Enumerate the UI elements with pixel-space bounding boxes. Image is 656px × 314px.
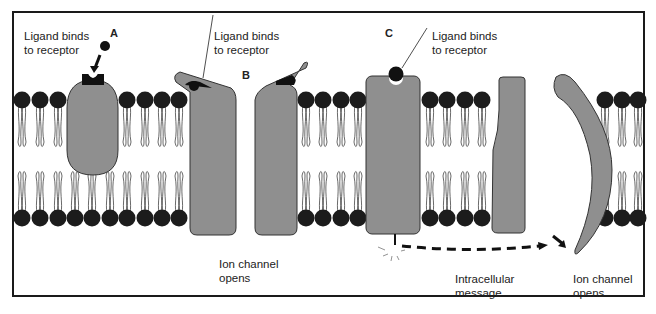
label-c-ligand-binds: Ligand binds <box>432 30 497 43</box>
label-b-to-receptor: to receptor <box>214 44 269 57</box>
panel-letter-c: C <box>385 27 393 39</box>
ligand-c-icon <box>389 67 404 82</box>
intracellular-message-arrow <box>402 246 540 250</box>
ligand-a-icon <box>100 41 110 51</box>
lipid-bilayer-bottom-leaflet <box>14 172 647 227</box>
label-a-ligand-binds: Ligand binds <box>24 30 89 43</box>
label-b-opens: opens <box>219 272 250 285</box>
label-b-ligand-binds: Ligand binds <box>214 30 279 43</box>
receptor-protein-c <box>366 67 420 235</box>
label-c-ion-channel: Ion channel <box>573 273 632 286</box>
panel-letter-a: A <box>110 27 118 39</box>
label-c-intracellular: Intracellular <box>455 273 514 286</box>
label-a-to-receptor: to receptor <box>24 44 79 57</box>
label-c-message: message <box>455 287 502 300</box>
receptor-protein-a <box>67 74 118 175</box>
signal-burst-icon <box>378 247 405 261</box>
label-c-to-receptor: to receptor <box>432 44 487 57</box>
leader-line-b <box>203 15 213 78</box>
receptor-binding-site-icon <box>82 74 104 85</box>
label-c-opens: opens <box>573 287 604 300</box>
ion-channel-b-right <box>255 62 308 235</box>
ion-channel-c-closed <box>492 77 525 233</box>
leader-line-c <box>402 28 427 68</box>
membrane-diagram <box>0 0 656 314</box>
panel-letter-b: B <box>242 69 250 81</box>
label-b-ion-channel: Ion channel <box>219 258 278 271</box>
